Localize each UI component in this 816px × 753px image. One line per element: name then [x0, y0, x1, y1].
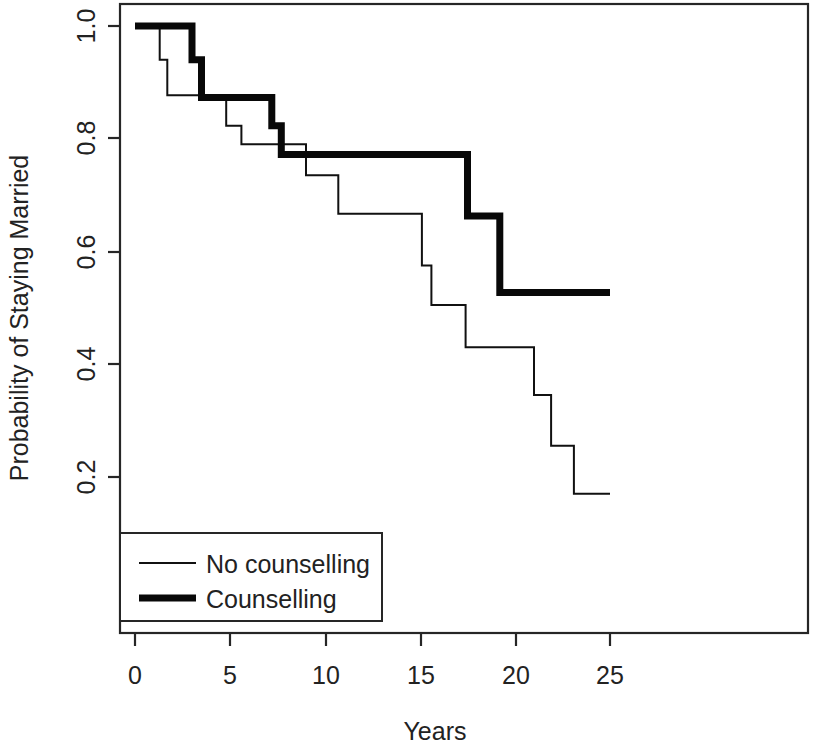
- y-axis-title: Probability of Staying Married: [5, 155, 33, 482]
- legend-label-counselling: Counselling: [206, 585, 337, 613]
- kaplan-meier-chart: 1.0 0.8 0.6 0.4 0.2 0 5 10 15 20 25 Year…: [0, 0, 816, 753]
- legend-label-no-counselling: No counselling: [206, 550, 370, 578]
- y-tick-label-0.2: 0.2: [72, 460, 100, 495]
- x-tick-label-5: 5: [223, 661, 237, 689]
- x-tick-label-20: 20: [502, 661, 530, 689]
- y-tick-label-0.4: 0.4: [72, 347, 100, 382]
- x-tick-label-10: 10: [312, 661, 340, 689]
- y-tick-label-1.0: 1.0: [72, 9, 100, 44]
- x-axis-title: Years: [403, 717, 466, 745]
- y-tick-label-0.8: 0.8: [72, 121, 100, 156]
- chart-background: [0, 0, 816, 753]
- x-tick-label-0: 0: [128, 661, 142, 689]
- x-tick-label-15: 15: [407, 661, 435, 689]
- legend: No counselling Counselling: [120, 533, 382, 621]
- x-tick-label-25: 25: [596, 661, 624, 689]
- y-tick-label-0.6: 0.6: [72, 235, 100, 270]
